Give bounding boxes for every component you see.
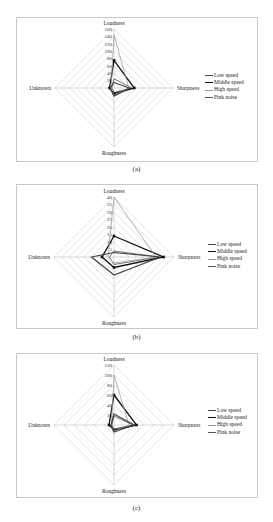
tick-label: 80 xyxy=(107,383,113,388)
legend-item-low-speed: Low speed xyxy=(208,407,247,414)
axis-label-sharpness: Sharpness xyxy=(178,422,200,428)
axis-label-roughness: Roughness xyxy=(102,488,126,494)
tick-label: 60 xyxy=(107,393,113,398)
radar-chart-c: 20406080100120LoudnessSharpnessRoughness… xyxy=(0,0,273,522)
legend-item-high-speed: High speed xyxy=(208,421,247,428)
legend-c: Low speed Middle speed High speed Pink n… xyxy=(208,407,247,436)
data-marker xyxy=(135,424,138,427)
legend-item-pink-noise: Pink noise xyxy=(208,429,247,436)
tick-label: 100 xyxy=(105,373,113,378)
tick-label: 120 xyxy=(105,363,113,368)
axis-label-unknown: Unknown xyxy=(28,422,50,428)
axis-label-loudness: Loudness xyxy=(103,356,124,362)
legend-item-middle-speed: Middle speed xyxy=(208,414,247,421)
chart-panel-c: 20406080100120LoudnessSharpnessRoughness… xyxy=(0,0,273,522)
caption-c: (c) xyxy=(0,504,273,512)
data-marker xyxy=(108,424,111,427)
